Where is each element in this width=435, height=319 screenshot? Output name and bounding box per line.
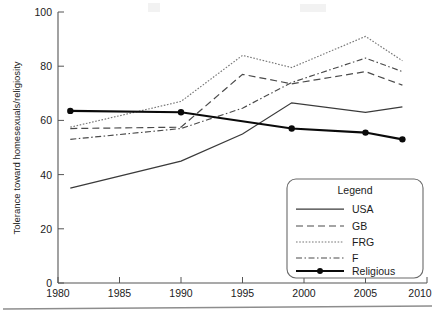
- chart-legend: Legend USA GB FRG F Religious: [287, 179, 423, 278]
- y-tick-label: 60: [40, 114, 52, 126]
- data-point-religious: [178, 109, 184, 115]
- data-point-religious: [67, 108, 73, 114]
- line-chart: 100 80 60 40 20 0 Tolerance toward homes…: [0, 0, 435, 319]
- scan-artifact: [300, 4, 326, 12]
- legend-label-religious: Religious: [352, 265, 395, 277]
- legend-title: Legend: [337, 184, 372, 196]
- legend-marker-religious: [317, 268, 323, 274]
- y-tick-label: 100: [34, 6, 52, 18]
- y-tick-label: 40: [40, 169, 52, 181]
- y-axis-title: Tolerance toward homesexuals/religiosity: [11, 61, 22, 234]
- page-edge-rule: [3, 306, 432, 309]
- x-tick-label: 2000: [292, 287, 316, 299]
- y-axis: 100 80 60 40 20 0: [34, 6, 64, 289]
- data-point-religious: [362, 129, 368, 135]
- series-line-frg: [70, 36, 402, 127]
- chart-figure: 100 80 60 40 20 0 Tolerance toward homes…: [0, 0, 435, 319]
- series-line-usa: [70, 103, 402, 188]
- legend-label-frg: FRG: [352, 236, 374, 248]
- x-tick-label: 2005: [354, 287, 378, 299]
- x-tick-label: 1990: [169, 287, 193, 299]
- series-layer: [67, 36, 405, 188]
- x-tick-label: 1995: [231, 287, 255, 299]
- legend-label-f: F: [352, 252, 358, 264]
- legend-label-gb: GB: [352, 220, 367, 232]
- data-point-religious: [399, 136, 405, 142]
- y-tick-label: 80: [40, 60, 52, 72]
- x-tick-label: 1985: [108, 287, 132, 299]
- y-tick-label: 20: [40, 223, 52, 235]
- x-tick-label: 2010: [408, 287, 432, 299]
- x-tick-label: 1980: [46, 287, 70, 299]
- legend-label-usa: USA: [352, 203, 374, 215]
- series-line-f: [70, 58, 402, 139]
- data-point-religious: [289, 125, 295, 131]
- x-axis: 1980 1985 1990 1995 2000 2005 2010: [46, 277, 432, 299]
- scan-artifact: [148, 3, 160, 12]
